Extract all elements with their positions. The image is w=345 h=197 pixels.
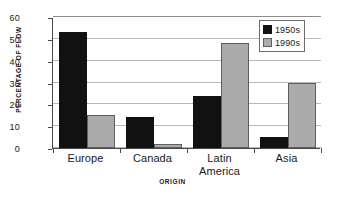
x-axis-category-label: LatinAmerica xyxy=(186,152,253,177)
bar-1990s-europe xyxy=(87,115,115,148)
black-square-marker xyxy=(263,25,272,34)
x-axis-category-label: Europe xyxy=(52,152,119,165)
y-axis-tick-mark xyxy=(48,62,52,63)
x-axis-tick-mark xyxy=(321,148,322,153)
y-axis-tick-mark xyxy=(48,18,52,19)
bar-1950s-asia xyxy=(260,137,288,148)
y-axis-tick-label: 30 xyxy=(0,79,20,89)
y-axis-tick-label: 20 xyxy=(0,100,20,110)
y-axis-tick-label: 10 xyxy=(0,122,20,132)
y-axis-tick-mark xyxy=(48,40,52,41)
legend-item-1950s: 1950s xyxy=(263,23,300,36)
y-axis-tick-mark xyxy=(48,149,52,150)
legend-item-label: 1950s xyxy=(275,25,300,35)
bar-1950s-europe xyxy=(59,32,87,148)
gridline-60 xyxy=(53,16,321,17)
x-axis-category-line: America xyxy=(186,165,253,178)
bar-chart: PERCENTAGE OF FLOW 0102030405060 EuropeC… xyxy=(0,0,345,197)
legend-item-1990s: 1990s xyxy=(263,36,300,49)
y-axis-tick-mark xyxy=(48,105,52,106)
x-axis-category-label: Canada xyxy=(119,152,186,165)
bar-1990s-canada xyxy=(154,144,182,148)
bar-group-latin-america xyxy=(187,18,254,148)
chart-legend: 1950s1990s xyxy=(259,20,305,52)
bar-group-canada xyxy=(120,18,187,148)
y-axis-tick-label: 0 xyxy=(0,144,20,154)
y-axis-tick-label: 40 xyxy=(0,57,20,67)
x-axis-category-line: Latin xyxy=(186,152,253,165)
bar-1950s-latin-america xyxy=(193,96,221,148)
y-axis-tick-label: 50 xyxy=(0,35,20,45)
x-axis-category-label: Asia xyxy=(253,152,320,165)
bar-1990s-latin-america xyxy=(221,43,249,148)
y-axis-tick-label: 60 xyxy=(0,13,20,23)
y-axis-tick-mark xyxy=(48,84,52,85)
y-axis-tick-mark xyxy=(48,127,52,128)
bar-group-europe xyxy=(53,18,120,148)
x-axis-title: ORIGIN xyxy=(0,178,345,185)
bar-1990s-asia xyxy=(288,83,316,149)
x-axis-category-line: Europe xyxy=(52,152,119,165)
legend-item-label: 1990s xyxy=(275,38,300,48)
x-axis-category-line: Canada xyxy=(119,152,186,165)
bar-1950s-canada xyxy=(126,117,154,148)
gray-square-marker xyxy=(263,38,272,47)
x-axis-category-line: Asia xyxy=(253,152,320,165)
